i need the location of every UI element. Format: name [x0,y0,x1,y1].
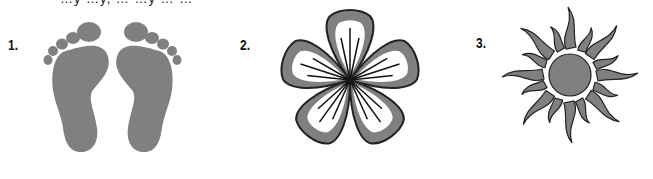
flower-icon [275,5,425,155]
left-foot-icon [44,22,109,152]
cropped-top-text: …y …y, … …y … … [60,0,193,6]
right-foot-icon [116,22,181,152]
figure-3-label: 3. [476,34,486,51]
figure-2-label: 2. [240,36,250,53]
flower-figure [275,5,425,155]
footprints-figure [25,20,200,155]
figure-1-label: 1. [8,36,18,53]
sun-figure [495,0,645,150]
sun-icon [495,0,645,150]
sun-disc [549,54,591,96]
